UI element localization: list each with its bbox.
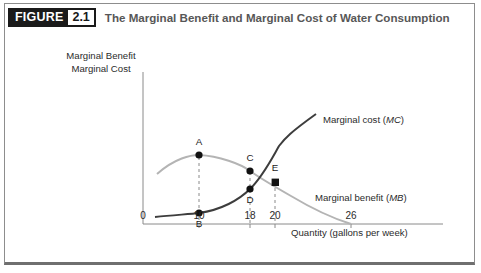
data-point-c — [246, 167, 253, 174]
mb-label-italic: MB — [389, 192, 403, 203]
point-label-a: A — [191, 136, 207, 147]
y-axis-label: Marginal Benefit Marginal Cost — [53, 50, 149, 75]
mb-label-close: ) — [404, 192, 407, 203]
mc-label-italic: MC — [386, 114, 401, 125]
y-axis-label-line2: Marginal Cost — [53, 63, 149, 76]
x-axis-title: Quantity (gallons per week) — [291, 227, 408, 238]
mc-label-close: ) — [401, 114, 404, 125]
figure-header: FIGURE 2.1 The Marginal Benefit and Marg… — [5, 8, 474, 27]
figure-tag-word: FIGURE — [9, 9, 68, 26]
mb-label-text: Marginal benefit ( — [315, 192, 389, 203]
point-label-e: E — [267, 162, 283, 173]
x-tick-label-0: 0 — [132, 210, 154, 221]
figure-title: The Marginal Benefit and Marginal Cost o… — [105, 11, 450, 24]
y-axis-label-line1: Marginal Benefit — [66, 50, 135, 61]
data-point-e — [272, 179, 279, 186]
marginal-benefit-curve-label: Marginal benefit (MB) — [315, 192, 407, 203]
chart-plot-area: Marginal Benefit Marginal Cost — [5, 28, 474, 263]
x-tick-label-10: 10 — [188, 210, 210, 221]
point-label-d: D — [242, 194, 258, 205]
mc-label-text: Marginal cost ( — [323, 114, 386, 125]
figure-container: FIGURE 2.1 The Marginal Benefit and Marg… — [4, 3, 475, 265]
data-point-d — [246, 185, 253, 192]
figure-tag: FIGURE 2.1 — [8, 8, 96, 27]
marginal-cost-curve-label: Marginal cost (MC) — [323, 114, 404, 125]
x-tick-label-18: 18 — [239, 210, 261, 221]
figure-tag-number: 2.1 — [68, 10, 93, 25]
data-point-a — [195, 151, 202, 158]
x-tick-label-20: 20 — [264, 210, 286, 221]
point-label-c: C — [242, 152, 258, 163]
x-tick-label-26: 26 — [340, 210, 362, 221]
marginal-cost-curve-main — [155, 114, 316, 217]
